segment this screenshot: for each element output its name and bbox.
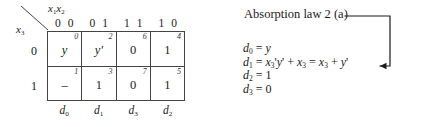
row-label-1: 1	[26, 79, 42, 94]
equation-list: d0 = y d1 = x3'y' + x3 = x3 + y' d2 = 1 …	[243, 42, 348, 96]
bottom-label-d0: d0	[47, 104, 82, 118]
corner-diagonal-line	[20, 5, 50, 31]
bottom-label-row: d0 d1 d3 d2	[47, 104, 185, 118]
absorption-law-title: Absorption law 2 (a)	[244, 7, 348, 22]
kmap-row-1: 1 – 3 1 7 0 5 1	[48, 66, 184, 101]
kmap-row-0: 0 y 2 y' 6 0 4 1	[48, 32, 184, 66]
column-header-3: 1 0	[151, 17, 186, 29]
equation-d3: d3 = 0	[243, 83, 348, 97]
kmap-cell-4-index: 4	[177, 32, 181, 41]
kmap-cell-6: 6 0	[116, 32, 150, 66]
kmap-cell-6-value: 0	[117, 43, 150, 58]
row-variable-label: x3	[16, 23, 24, 36]
column-header-1: 0 1	[82, 17, 117, 29]
bottom-label-d1: d1	[82, 104, 117, 118]
kmap-cell-5-value: 1	[151, 78, 184, 93]
equation-d1: d1 = x3'y' + x3 = x3 + y'	[243, 56, 348, 70]
column-header-2: 1 1	[116, 17, 151, 29]
column-header-row: 0 0 0 1 1 1 1 0	[47, 17, 185, 29]
kmap-cell-3-index: 3	[109, 67, 113, 76]
kmap-cell-1-value: –	[48, 78, 81, 93]
karnaugh-map-figure: x1x2 x3 0 0 0 1 1 1 1 0 0 1 0 y 2 y' 6 0…	[0, 0, 213, 127]
equation-d2: d2 = 1	[243, 69, 348, 83]
kmap-cell-3: 3 1	[81, 67, 115, 101]
kmap-grid: 0 y 2 y' 6 0 4 1 1 – 3 1	[47, 31, 185, 101]
kmap-cell-7-value: 0	[117, 78, 150, 93]
kmap-cell-0-index: 0	[74, 32, 78, 41]
kmap-cell-7: 7 0	[116, 67, 150, 101]
kmap-cell-5: 5 1	[150, 67, 184, 101]
kmap-cell-0-value: y	[48, 43, 81, 58]
equation-d0: d0 = y	[243, 42, 348, 56]
kmap-cell-2-value: y'	[82, 43, 115, 58]
kmap-cell-4-value: 1	[151, 43, 184, 58]
kmap-cell-6-index: 6	[143, 32, 147, 41]
row-label-0: 0	[26, 44, 42, 59]
kmap-cell-1-index: 1	[74, 67, 78, 76]
annotation-figure: Absorption law 2 (a) d0 = y d1 = x3'y' +…	[213, 0, 426, 127]
kmap-cell-5-index: 5	[177, 67, 181, 76]
kmap-cell-3-value: 1	[82, 78, 115, 93]
kmap-cell-0: 0 y	[48, 32, 81, 66]
bottom-label-d2: d2	[151, 104, 186, 118]
kmap-cell-7-index: 7	[143, 67, 147, 76]
bottom-label-d3: d3	[116, 104, 151, 118]
kmap-cell-1: 1 –	[48, 67, 81, 101]
kmap-cell-2-index: 2	[109, 32, 113, 41]
kmap-cell-2: 2 y'	[81, 32, 115, 66]
column-variables-label: x1x2	[48, 2, 65, 15]
column-header-0: 0 0	[47, 17, 82, 29]
kmap-cell-4: 4 1	[150, 32, 184, 66]
